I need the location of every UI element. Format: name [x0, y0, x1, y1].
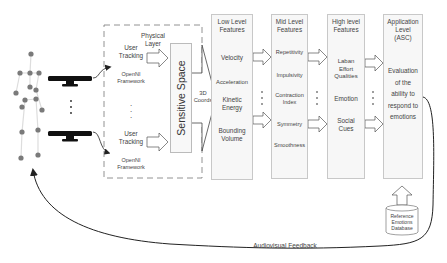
depth-sensor-icon: [48, 76, 92, 87]
feature-kinetic-energy: Kinetic Energy: [211, 96, 253, 112]
feature-bounding-volume: Bounding Volume: [211, 127, 253, 143]
feature-repetitivity: Repetitivity: [269, 48, 310, 56]
user-tracking-label-2: User Tracking: [111, 130, 151, 146]
audiovisual-feedback-label: Audiovisual Feedback: [240, 242, 330, 250]
feature-emotion: Emotion: [327, 95, 365, 103]
depth-sensor-icon: [48, 131, 92, 142]
feature-contraction-index: Contraction Index: [269, 92, 310, 106]
sensitive-space-label: Sensitive Space: [175, 60, 187, 135]
feature-smoothness: Smoothness: [268, 141, 311, 149]
mid-level-title: Mid Level Features: [271, 18, 308, 34]
feature-laban-effort-qualities: Laban Effort Qualities: [327, 58, 365, 81]
application-evaluation-text: Evaluation of the ability to respond to …: [383, 65, 423, 123]
high-level-title: High level Features: [327, 18, 365, 34]
feature-velocity: Velocity: [211, 54, 253, 62]
feature-social-cues: Social Cues: [327, 117, 365, 133]
feature-impulsivity: Impulsivity: [269, 71, 310, 79]
reference-emotions-database-label: Reference Emotions Database: [386, 213, 418, 231]
openni-framework-label-1: OpenNI Framework: [111, 71, 151, 85]
low-level-title: Low Level Features: [211, 18, 253, 34]
user-tracking-label-1: User Tracking: [111, 44, 151, 60]
ellipsis: ···: [127, 103, 135, 121]
openni-framework-label-2: OpenNI Framework: [111, 157, 151, 171]
feature-symmetry: Symmetry: [269, 120, 310, 128]
feature-acceleration: Acceleration: [209, 78, 255, 86]
application-level-title: Application Level (ASC): [383, 18, 423, 42]
